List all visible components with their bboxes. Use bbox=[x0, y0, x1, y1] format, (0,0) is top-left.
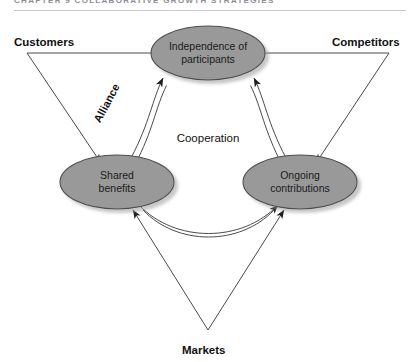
corner-label-markets: Markets bbox=[182, 344, 225, 356]
corner-label-competitors: Competitors bbox=[332, 36, 400, 48]
triangle-edge-markets-to-ongoing bbox=[208, 210, 284, 330]
node-ongoing-contributions-label-line2: contributions bbox=[270, 182, 330, 194]
triangle-edge-competitors-to-ongoing bbox=[316, 53, 389, 163]
node-independence-label-line1: Independence of bbox=[169, 40, 247, 52]
connector-shared-independence bbox=[131, 78, 167, 166]
center-label-cooperation: Cooperation bbox=[177, 132, 240, 144]
node-independence-label-line2: participants bbox=[181, 53, 235, 65]
triangle-edge-markets-to-shared bbox=[133, 210, 208, 330]
connector-shared-ongoing bbox=[139, 205, 278, 237]
node-shared-benefits-label-line1: Shared bbox=[100, 169, 134, 181]
node-ongoing-contributions-label-line1: Ongoing bbox=[280, 169, 320, 181]
node-independence[interactable]: Independence of participants bbox=[151, 26, 265, 80]
connector-independence-ongoing bbox=[251, 78, 287, 166]
triangle-edge-customers-to-shared bbox=[27, 53, 101, 163]
diagram-svg: Independence of participants Shared bene… bbox=[0, 0, 417, 362]
node-ongoing-contributions[interactable]: Ongoing contributions bbox=[243, 155, 357, 209]
node-shared-benefits[interactable]: Shared benefits bbox=[60, 155, 174, 209]
edge-label-alliance: Alliance bbox=[91, 82, 121, 125]
node-shared-benefits-label-line2: benefits bbox=[99, 182, 136, 194]
corner-label-customers: Customers bbox=[14, 36, 74, 48]
figure-canvas: CHAPTER 9 COLLABORATIVE GROWTH STRATEGIE… bbox=[0, 0, 417, 362]
